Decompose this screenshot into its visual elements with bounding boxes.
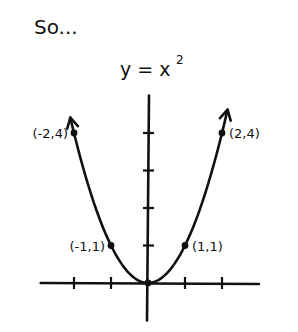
data-point bbox=[71, 130, 78, 137]
data-point bbox=[182, 242, 189, 249]
graph-title: y = x 2 bbox=[120, 53, 184, 80]
graph-canvas: So... y = x 2 (-2,4)(-1,1)(1,1)(2,4) bbox=[0, 0, 298, 332]
point-label: (2,4) bbox=[229, 126, 260, 141]
point-label: (-1,1) bbox=[69, 239, 105, 254]
data-point bbox=[219, 130, 226, 137]
data-point bbox=[145, 280, 152, 287]
point-label: (1,1) bbox=[192, 239, 223, 254]
data-point bbox=[108, 242, 115, 249]
title-lhs: y = x bbox=[120, 58, 171, 80]
points-layer: (-2,4)(-1,1)(1,1)(2,4) bbox=[32, 126, 259, 286]
point-label: (-2,4) bbox=[32, 126, 68, 141]
intro-text: So... bbox=[34, 15, 78, 39]
title-exponent: 2 bbox=[176, 53, 184, 67]
